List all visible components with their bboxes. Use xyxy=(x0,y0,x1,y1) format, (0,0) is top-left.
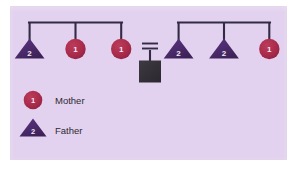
mating-union-group: = xyxy=(139,39,161,83)
right-member-3-label: 1 xyxy=(267,45,272,54)
left-member-3-label: 1 xyxy=(119,45,124,54)
square-shape xyxy=(139,61,161,83)
left-member-1-father-triangle[interactable]: 2 xyxy=(15,39,45,59)
equals-sign-label: = xyxy=(150,39,151,40)
legend: 1 Mother 2 Father xyxy=(20,91,85,137)
right-member-3-mother-circle[interactable]: 1 xyxy=(259,39,279,59)
legend-father-symbol-label: 2 xyxy=(31,127,35,136)
legend-mother-symbol-label: 1 xyxy=(31,96,35,105)
legend-mother-text: Mother xyxy=(55,95,85,106)
right-member-2-father-triangle[interactable]: 2 xyxy=(209,39,239,59)
legend-item-mother[interactable]: 1 Mother xyxy=(24,91,85,110)
legend-father-text: Father xyxy=(55,125,82,136)
right-member-1-father-triangle[interactable]: 2 xyxy=(164,39,194,59)
left-sibship-group: 2 1 1 xyxy=(15,22,132,59)
pedigree-diagram: 2 1 1 = xyxy=(0,0,297,171)
right-member-2-label: 2 xyxy=(222,49,227,58)
legend-item-father[interactable]: 2 Father xyxy=(20,119,83,137)
left-member-2-mother-circle[interactable]: 1 xyxy=(65,39,85,59)
left-member-3-mother-circle[interactable]: 1 xyxy=(111,39,131,59)
left-member-1-label: 2 xyxy=(27,49,32,58)
offspring-square[interactable] xyxy=(139,61,161,83)
right-sibship-group: 2 2 1 xyxy=(164,22,280,59)
right-member-1-label: 2 xyxy=(176,49,181,58)
left-member-2-label: 1 xyxy=(73,45,78,54)
diagram-stage: 2 1 1 = xyxy=(0,0,297,171)
